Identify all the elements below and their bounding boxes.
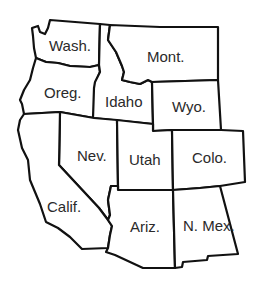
label-wash: Wash.: [49, 37, 91, 54]
label-idaho: Idaho: [105, 93, 143, 110]
label-utah: Utah: [129, 151, 161, 168]
western-states-map: [0, 0, 256, 281]
label-wyo: Wyo.: [172, 98, 206, 115]
label-mont: Mont.: [147, 48, 185, 65]
label-colo: Colo.: [192, 149, 227, 166]
label-calif: Calif.: [47, 198, 81, 215]
label-oreg: Oreg.: [44, 84, 82, 101]
label-nmex: N. Mex.: [183, 217, 235, 234]
label-nev: Nev.: [77, 147, 107, 164]
label-ariz: Ariz.: [130, 218, 160, 235]
